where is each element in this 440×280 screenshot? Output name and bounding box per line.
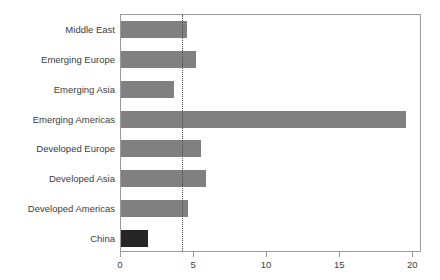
xtick-mark-4 — [412, 252, 413, 257]
category-label-developed-asia: Developed Asia — [5, 173, 115, 184]
category-label-china: China — [5, 233, 115, 244]
category-label-emerging-asia: Emerging Asia — [5, 84, 115, 95]
plot-area — [120, 14, 421, 252]
category-label-developed-europe: Developed Europe — [5, 143, 115, 154]
bar-developed-asia — [121, 170, 206, 187]
bar-row-emerging-americas — [121, 104, 420, 134]
bar-china — [121, 230, 148, 247]
category-label-emerging-americas: Emerging Americas — [5, 114, 115, 125]
bar-row-developed-americas — [121, 194, 420, 224]
bar-emerging-americas — [121, 111, 406, 128]
xtick-label-0: 0 — [117, 259, 122, 270]
xtick-label-3: 15 — [334, 259, 345, 270]
bar-row-developed-asia — [121, 164, 420, 194]
category-label-developed-americas: Developed Americas — [5, 203, 115, 214]
xtick-mark-1 — [193, 252, 194, 257]
xtick-mark-3 — [339, 252, 340, 257]
xtick-label-1: 5 — [190, 259, 195, 270]
bar-developed-europe — [121, 140, 201, 157]
bar-emerging-asia — [121, 81, 174, 98]
bar-middle-east — [121, 21, 187, 38]
bar-row-middle-east — [121, 15, 420, 45]
bar-row-developed-europe — [121, 134, 420, 164]
reference-line — [182, 15, 183, 251]
xtick-label-2: 10 — [261, 259, 272, 270]
bar-developed-americas — [121, 200, 188, 217]
bar-emerging-europe — [121, 51, 196, 68]
xtick-mark-2 — [266, 252, 267, 257]
xtick-mark-0 — [120, 252, 121, 257]
bar-row-emerging-europe — [121, 45, 420, 75]
category-label-middle-east: Middle East — [5, 24, 115, 35]
bar-row-china — [121, 223, 420, 252]
bar-chart: Middle East Emerging Europe Emerging Asi… — [0, 0, 440, 280]
category-label-emerging-europe: Emerging Europe — [5, 54, 115, 65]
bar-row-emerging-asia — [121, 75, 420, 105]
xtick-label-4: 20 — [407, 259, 418, 270]
